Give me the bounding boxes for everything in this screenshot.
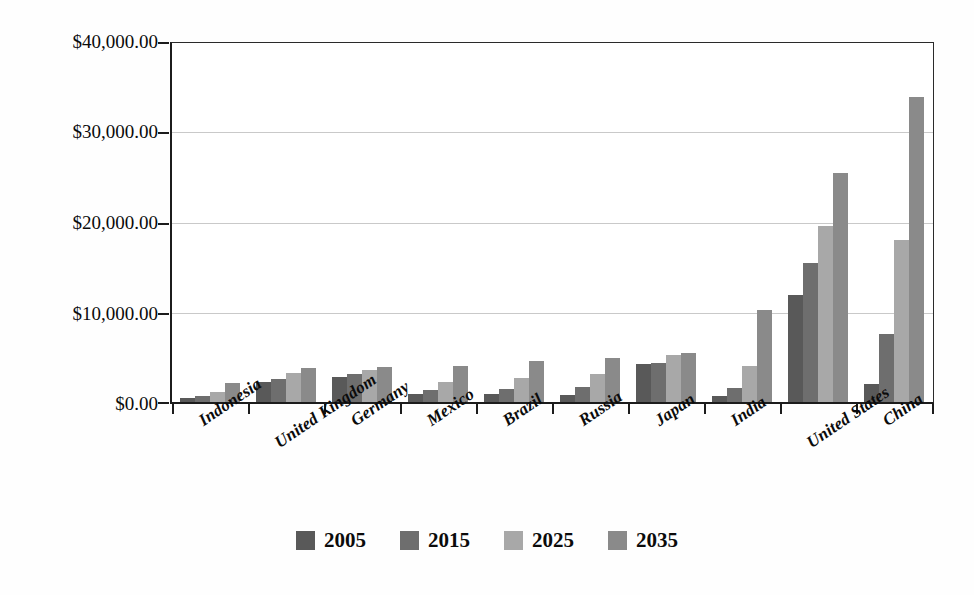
x-axis-ticks [172,404,932,414]
bar [423,390,438,402]
y-axis-label-30000: $30,000.00 [73,121,159,143]
bar-group [172,43,248,402]
x-tick [780,404,782,414]
y-axis-label-20000: $20,000.00 [73,212,159,234]
y-tick-20000 [158,223,169,225]
y-axis: $40,000.00 $30,000.00 $20,000.00 $10,000… [0,42,158,404]
y-axis-label-10000: $10,000.00 [73,303,159,325]
legend-item-2035[interactable]: 2035 [608,528,678,553]
bar-group [704,43,780,402]
bar [301,368,316,402]
legend-swatch-2025 [504,531,523,550]
x-tick [628,404,630,414]
legend-label-2025: 2025 [532,528,574,553]
y-tick-0 [158,402,169,404]
legend-item-2025[interactable]: 2025 [504,528,574,553]
bar [803,263,818,402]
legend-label-2015: 2015 [428,528,470,553]
bar [271,379,286,402]
bar [499,389,514,402]
bar-group [552,43,628,402]
x-tick [932,404,934,414]
bar [651,363,666,402]
y-tick-10000 [158,313,169,315]
x-tick [248,404,250,414]
bar [636,364,651,402]
y-axis-label-40000: $40,000.00 [73,31,159,53]
bar-group [248,43,324,402]
y-tick-30000 [158,132,169,134]
legend-item-2015[interactable]: 2015 [400,528,470,553]
bar-group [780,43,856,402]
x-tick [172,404,174,414]
x-tick [400,404,402,414]
legend-item-2005[interactable]: 2005 [296,528,366,553]
bar [757,310,772,402]
y-axis-label-0: $0.00 [115,393,158,415]
legend-swatch-2015 [400,531,419,550]
bar-groups [172,43,932,402]
bar-group [628,43,704,402]
legend-label-2005: 2005 [324,528,366,553]
bar [833,173,848,402]
x-axis-labels: IndonesiaUnited KingdomGermanyMexicoBraz… [172,414,932,514]
legend-label-2035: 2035 [636,528,678,553]
legend-swatch-2035 [608,531,627,550]
bar [712,396,727,402]
x-tick [704,404,706,414]
x-tick [476,404,478,414]
y-tick-40000 [158,42,169,44]
bar [286,373,301,402]
bar [727,388,742,402]
bar-group [476,43,552,402]
bar-group [400,43,476,402]
bar [788,295,803,402]
chart-legend: 2005201520252035 [0,528,974,553]
bar-group [324,43,400,402]
bar [484,394,499,402]
bar [195,396,210,402]
bar [818,226,833,402]
bar [180,398,195,402]
bar [575,387,590,402]
legend-swatch-2005 [296,531,315,550]
bar-group [856,43,932,402]
bar [894,240,909,402]
bar [560,395,575,402]
x-tick [552,404,554,414]
bar-chart: $40,000.00 $30,000.00 $20,000.00 $10,000… [0,0,974,595]
bar [909,97,924,402]
